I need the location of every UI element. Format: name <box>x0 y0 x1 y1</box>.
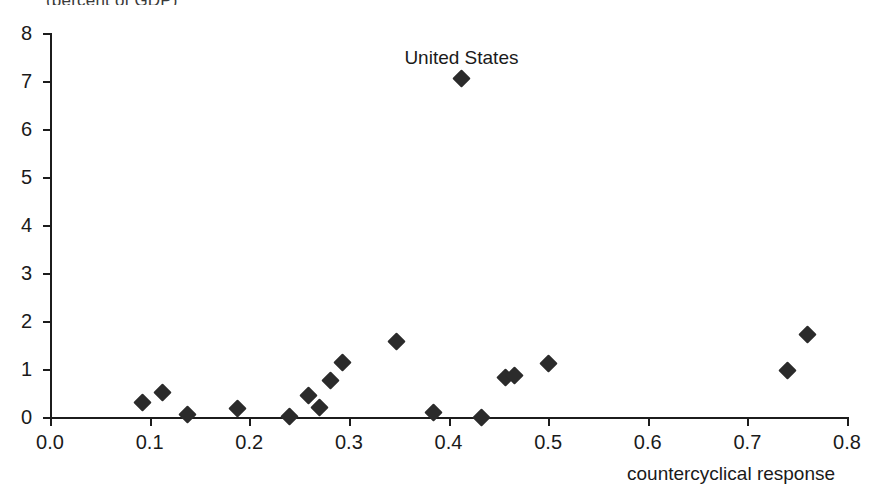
y-tick-label: 1 <box>21 359 32 379</box>
data-point[interactable] <box>387 332 405 350</box>
y-tick-mark: 4 <box>43 225 51 227</box>
y-tick-mark: 6 <box>43 129 51 131</box>
data-point[interactable] <box>178 405 196 423</box>
data-point[interactable] <box>280 407 298 425</box>
x-tick-mark <box>50 417 52 426</box>
data-point[interactable] <box>472 408 490 426</box>
x-tick-label: 0.1 <box>136 432 164 452</box>
data-point[interactable] <box>228 400 246 418</box>
x-tick-label: 0.2 <box>235 432 263 452</box>
data-point[interactable] <box>452 69 470 87</box>
data-point[interactable] <box>153 383 171 401</box>
x-tick-mark <box>747 417 749 426</box>
x-tick-label: 0.4 <box>435 432 463 452</box>
data-point[interactable] <box>798 325 816 343</box>
y-tick-mark: 8 <box>43 33 51 35</box>
y-tick-label: 2 <box>21 311 32 331</box>
y-tick-label: 7 <box>21 71 32 91</box>
plot-area: 012345678 0.00.10.20.30.40.50.60.70.8 Un… <box>50 33 847 417</box>
y-tick-label: 5 <box>21 167 32 187</box>
x-tick-label: 0.5 <box>534 432 562 452</box>
y-tick-mark: 3 <box>43 273 51 275</box>
data-point[interactable] <box>778 361 796 379</box>
y-tick-label: 4 <box>21 215 32 235</box>
x-tick-label: 0.6 <box>634 432 662 452</box>
y-tick-mark: 2 <box>43 321 51 323</box>
y-tick-mark: 1 <box>43 369 51 371</box>
data-point[interactable] <box>133 393 151 411</box>
x-tick-mark <box>847 417 849 426</box>
y-tick-label: 0 <box>21 407 32 427</box>
x-tick-mark <box>648 417 650 426</box>
x-tick-label: 0.8 <box>833 432 861 452</box>
x-tick-label: 0.7 <box>733 432 761 452</box>
data-point[interactable] <box>334 353 352 371</box>
y-tick-mark: 7 <box>43 81 51 83</box>
x-tick-mark <box>150 417 152 426</box>
y-tick-mark: 5 <box>43 177 51 179</box>
x-tick-label: 0.0 <box>36 432 64 452</box>
data-point[interactable] <box>311 398 329 416</box>
y-tick-label: 3 <box>21 263 32 283</box>
x-tick-mark <box>349 417 351 426</box>
data-point-annotation: United States <box>404 48 518 67</box>
x-tick-mark <box>449 417 451 426</box>
data-point[interactable] <box>322 371 340 389</box>
clipped-title-text: (percent of GDP) <box>46 0 466 5</box>
y-tick-label: 6 <box>21 119 32 139</box>
data-point[interactable] <box>539 354 557 372</box>
x-axis-title: countercyclical response <box>627 464 835 483</box>
x-tick-mark <box>249 417 251 426</box>
y-tick-label: 8 <box>21 23 32 43</box>
scatter-chart-figure: (percent of GDP) 012345678 0.00.10.20.30… <box>0 0 875 501</box>
x-tick-mark <box>548 417 550 426</box>
x-tick-label: 0.3 <box>335 432 363 452</box>
